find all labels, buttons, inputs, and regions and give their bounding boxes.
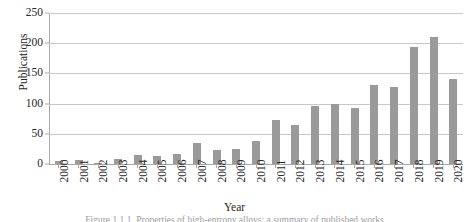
x-label-slot-2005: 2005 — [148, 169, 168, 203]
x-label-slot-2019: 2019 — [424, 169, 444, 203]
bar-2017 — [390, 87, 398, 164]
bar-slot-2014 — [325, 13, 345, 164]
bar-slot-2005 — [148, 13, 168, 164]
x-label-slot-2002: 2002 — [88, 169, 108, 203]
bar-slot-2020 — [443, 13, 463, 164]
x-label-slot-2012: 2012 — [286, 169, 306, 203]
x-label-slot-2010: 2010 — [246, 169, 266, 203]
bar-slot-2016 — [365, 13, 385, 164]
bar-2019 — [430, 37, 438, 164]
bar-slot-2002 — [88, 13, 108, 164]
x-label-slot-2009: 2009 — [226, 169, 246, 203]
bar-slot-2007 — [187, 13, 207, 164]
bar-slot-2001 — [69, 13, 89, 164]
bar-slot-2017 — [384, 13, 404, 164]
bar-slot-2015 — [345, 13, 365, 164]
x-label-slot-2006: 2006 — [167, 169, 187, 203]
x-label-slot-2014: 2014 — [325, 169, 345, 203]
x-label-slot-2001: 2001 — [69, 169, 89, 203]
y-tick-label-150: 150 — [26, 68, 43, 80]
y-tick-label-50: 50 — [32, 128, 44, 140]
x-label-slot-2011: 2011 — [266, 169, 286, 203]
x-label-slot-2008: 2008 — [207, 169, 227, 203]
x-axis-title: Year — [0, 201, 469, 213]
bar-2013 — [311, 106, 319, 164]
bar-2015 — [351, 108, 359, 164]
x-label-slot-2004: 2004 — [128, 169, 148, 203]
bar-slot-2018 — [404, 13, 424, 164]
bar-slot-2000 — [49, 13, 69, 164]
bar-slot-2013 — [305, 13, 325, 164]
bar-slot-2009 — [226, 13, 246, 164]
bar-2012 — [291, 125, 299, 164]
publications-per-year-bar-chart: Publications 050100150200250 20002001200… — [0, 0, 469, 222]
x-label-slot-2018: 2018 — [404, 169, 424, 203]
bar-slot-2008 — [207, 13, 227, 164]
bar-series — [49, 13, 463, 164]
x-axis-tick-labels: 2000200120022003200420052006200720082009… — [49, 169, 463, 203]
x-label-slot-2016: 2016 — [365, 169, 385, 203]
bar-2011 — [272, 120, 280, 164]
x-label-slot-2000: 2000 — [49, 169, 69, 203]
x-label-slot-2013: 2013 — [305, 169, 325, 203]
bar-slot-2012 — [286, 13, 306, 164]
bar-slot-2003 — [108, 13, 128, 164]
bar-slot-2011 — [266, 13, 286, 164]
x-label-slot-2003: 2003 — [108, 169, 128, 203]
x-label-slot-2007: 2007 — [187, 169, 207, 203]
x-tick-label-2020: 2020 — [453, 160, 465, 183]
bar-slot-2019 — [424, 13, 444, 164]
x-label-slot-2015: 2015 — [345, 169, 365, 203]
y-tick-label-250: 250 — [26, 7, 43, 19]
x-label-slot-2020: 2020 — [443, 169, 463, 203]
y-tick-label-100: 100 — [26, 98, 43, 110]
bar-2014 — [331, 104, 339, 164]
bar-2020 — [449, 79, 457, 164]
bar-slot-2004 — [128, 13, 148, 164]
x-label-slot-2017: 2017 — [384, 169, 404, 203]
y-tick-label-200: 200 — [26, 37, 43, 49]
bar-2016 — [370, 85, 378, 164]
bar-slot-2006 — [167, 13, 187, 164]
figure-caption: Figure 1.1.1. Properties of high-entropy… — [0, 215, 469, 222]
bar-slot-2010 — [246, 13, 266, 164]
plot-area: 050100150200250 — [49, 13, 463, 164]
y-tick-label-0: 0 — [37, 158, 43, 170]
bar-2018 — [410, 47, 418, 164]
